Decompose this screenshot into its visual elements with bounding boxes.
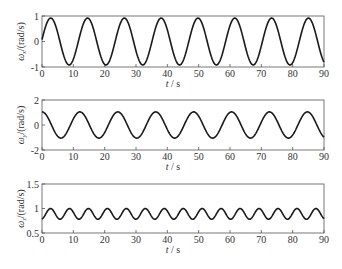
y-axis-label: ωx/(rad/s) bbox=[15, 22, 27, 61]
y-tick-label: 2 bbox=[34, 95, 39, 106]
x-tick-label: 20 bbox=[100, 151, 110, 162]
x-tick-label: 30 bbox=[131, 234, 141, 245]
series-line-ω_x bbox=[42, 18, 324, 65]
axes-box bbox=[42, 100, 324, 150]
subplot-2: 0102030405060708090-202t / sωy/(rad/s) bbox=[15, 95, 329, 173]
x-tick-label: 50 bbox=[194, 234, 204, 245]
chart-canvas: 0102030405060708090-101t / sωx/(rad/s)01… bbox=[0, 0, 342, 269]
x-tick-label: 90 bbox=[319, 234, 329, 245]
x-tick-label: 50 bbox=[194, 151, 204, 162]
y-tick-label: 0.5 bbox=[27, 228, 40, 239]
x-axis-label: t / s bbox=[166, 78, 181, 89]
x-tick-label: 20 bbox=[100, 68, 110, 79]
series-line-ω_z bbox=[42, 209, 324, 220]
x-axis-label: t / s bbox=[166, 244, 181, 255]
x-tick-label: 60 bbox=[225, 151, 235, 162]
figure: 0102030405060708090-101t / sωx/(rad/s)01… bbox=[0, 0, 342, 269]
subplot-1: 0102030405060708090-101t / sωx/(rad/s) bbox=[15, 11, 329, 90]
x-tick-label: 20 bbox=[100, 234, 110, 245]
y-tick-label: 1 bbox=[34, 203, 39, 214]
x-tick-label: 70 bbox=[256, 68, 266, 79]
x-axis-label: t / s bbox=[166, 161, 181, 172]
x-tick-label: 80 bbox=[288, 68, 298, 79]
x-tick-label: 10 bbox=[68, 151, 78, 162]
y-tick-label: 0 bbox=[34, 120, 39, 131]
x-tick-label: 0 bbox=[40, 68, 45, 79]
series-line-ω_y bbox=[42, 112, 324, 138]
x-tick-label: 70 bbox=[256, 151, 266, 162]
y-axis-label: ωy/(rad/s) bbox=[15, 106, 27, 145]
y-tick-label: -2 bbox=[31, 145, 39, 156]
y-tick-label: 1 bbox=[34, 11, 39, 22]
x-tick-label: 90 bbox=[319, 68, 329, 79]
x-tick-label: 80 bbox=[288, 234, 298, 245]
x-tick-label: 30 bbox=[131, 151, 141, 162]
x-tick-label: 60 bbox=[225, 68, 235, 79]
y-axis-label: ωz/(rad/s) bbox=[15, 189, 27, 227]
x-tick-label: 10 bbox=[68, 68, 78, 79]
x-tick-label: 0 bbox=[40, 151, 45, 162]
x-tick-label: 50 bbox=[194, 68, 204, 79]
x-tick-label: 0 bbox=[40, 234, 45, 245]
y-tick-label: 0 bbox=[34, 36, 39, 47]
y-tick-label: 1.5 bbox=[27, 179, 40, 190]
x-tick-label: 90 bbox=[319, 151, 329, 162]
subplot-3: 01020304050607080900.511.5t / sωz/(rad/s… bbox=[15, 179, 329, 256]
y-tick-label: -1 bbox=[31, 62, 39, 73]
x-tick-label: 80 bbox=[288, 151, 298, 162]
x-tick-label: 70 bbox=[256, 234, 266, 245]
x-tick-label: 30 bbox=[131, 68, 141, 79]
x-tick-label: 10 bbox=[68, 234, 78, 245]
x-tick-label: 60 bbox=[225, 234, 235, 245]
